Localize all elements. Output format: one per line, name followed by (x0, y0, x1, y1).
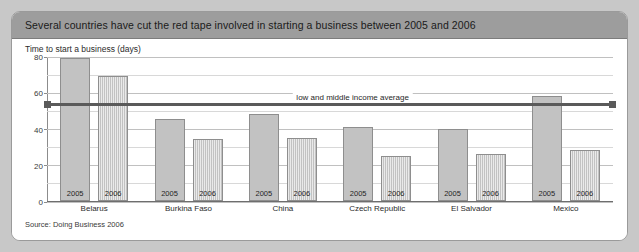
y-tick-label: 40 (34, 125, 43, 134)
category-label-mexico: Mexico (553, 204, 578, 213)
bar-el-salvador-2005[interactable]: 2005 (438, 129, 468, 202)
bar-belarus-2005[interactable]: 2005 (60, 58, 90, 201)
bar-year-label: 2006 (99, 189, 127, 198)
y-tick-label: 20 (34, 161, 43, 170)
chart-panel: Several countries have cut the red tape … (11, 11, 628, 241)
category-label-china: China (272, 204, 293, 213)
average-line-label: low and middle income average (292, 93, 413, 102)
bar-year-label: 2006 (382, 189, 410, 198)
bar-year-label: 2005 (533, 189, 561, 198)
bar-mexico-2005[interactable]: 2005 (532, 96, 562, 201)
bar-year-label: 2006 (477, 189, 505, 198)
average-line-endcap-left (44, 101, 51, 108)
bar-year-label: 2005 (344, 189, 372, 198)
bar-el-salvador-2006[interactable]: 2006 (476, 154, 506, 201)
plot-area: 020406080 200520062005200620052006200520… (47, 57, 613, 202)
y-tick-label: 80 (34, 53, 43, 62)
bar-year-label: 2006 (288, 189, 316, 198)
bar-czech-republic-2006[interactable]: 2006 (381, 156, 411, 201)
bar-year-label: 2005 (156, 189, 184, 198)
category-label-burkina-faso: Burkina Faso (165, 204, 212, 213)
bar-mexico-2006[interactable]: 2006 (570, 150, 600, 201)
page-title: Several countries have cut the red tape … (25, 19, 476, 31)
y-tick-label: 0 (39, 198, 43, 207)
bar-year-label: 2005 (250, 189, 278, 198)
average-line (47, 103, 613, 106)
bar-year-label: 2006 (571, 189, 599, 198)
bar-czech-republic-2005[interactable]: 2005 (343, 127, 373, 201)
bar-burkina-faso-2005[interactable]: 2005 (155, 119, 185, 201)
panel-body: Time to start a business (days) 02040608… (12, 39, 627, 241)
bar-china-2006[interactable]: 2006 (287, 138, 317, 201)
bar-year-label: 2005 (439, 189, 467, 198)
bar-year-label: 2005 (61, 189, 89, 198)
bar-belarus-2006[interactable]: 2006 (98, 76, 128, 201)
bar-burkina-faso-2006[interactable]: 2006 (193, 139, 223, 201)
category-labels: BelarusBurkina FasoChinaCzech RepublicEl… (47, 204, 613, 218)
average-line-endcap-right (609, 101, 616, 108)
category-label-el-salvador: El Salvador (451, 204, 492, 213)
panel-header: Several countries have cut the red tape … (12, 12, 627, 39)
bar-year-label: 2006 (194, 189, 222, 198)
source-note: Source: Doing Business 2006 (25, 220, 124, 229)
category-label-czech-republic: Czech Republic (349, 204, 405, 213)
bar-china-2005[interactable]: 2005 (249, 114, 279, 201)
bars-layer: 2005200620052006200520062005200620052006… (47, 57, 613, 202)
y-tick-label: 60 (34, 89, 43, 98)
category-label-belarus: Belarus (81, 204, 108, 213)
